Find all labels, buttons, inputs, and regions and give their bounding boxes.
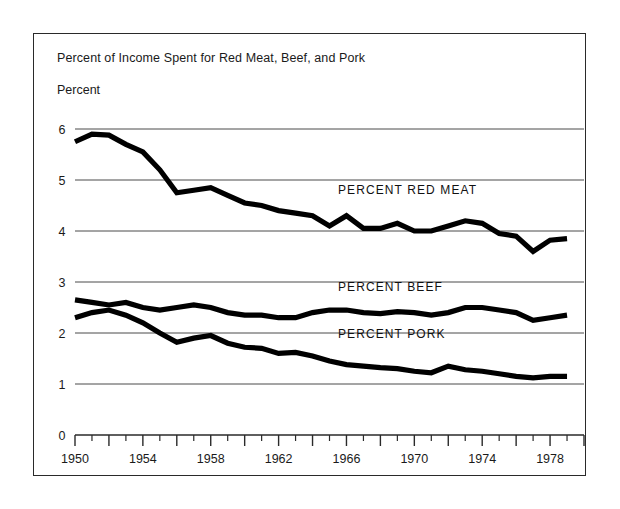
chart-frame: Percent of Income Spent for Red Meat, Be… [33,33,586,476]
y-tick-label-6: 6 [59,123,66,137]
series-annotation-0: PERCENT RED MEAT [338,183,477,197]
x-tick-label-1978: 1978 [536,452,564,466]
x-tick-label-1954: 1954 [129,452,157,466]
series-line-1 [75,300,567,320]
chart-plot: 0123456 19501954195819621966197019741978… [34,34,587,477]
y-tick-label-0: 0 [59,429,66,443]
series-line-2 [75,310,567,378]
x-tick-label-1966: 1966 [333,452,361,466]
x-tick-label-1958: 1958 [197,452,225,466]
chart-page: { "chart_data": { "type": "line", "title… [0,0,620,509]
x-tick-label-1970: 1970 [400,452,428,466]
y-tick-label-3: 3 [59,276,66,290]
series-annotation-1: PERCENT BEEF [338,280,443,294]
y-tick-label-2: 2 [59,327,66,341]
x-axis: 19501954195819621966197019741978 [61,435,584,466]
gridlines [75,129,584,435]
y-tick-label-1: 1 [59,378,66,392]
y-tick-label-5: 5 [59,174,66,188]
data-series [75,134,567,378]
series-line-0 [75,134,567,251]
series-annotations: PERCENT RED MEATPERCENT BEEFPERCENT PORK [338,183,477,341]
x-tick-label-1950: 1950 [61,452,89,466]
y-tick-label-4: 4 [59,225,66,239]
x-tick-label-1962: 1962 [265,452,293,466]
y-axis-ticks: 0123456 [59,123,66,443]
x-tick-label-1974: 1974 [468,452,496,466]
series-annotation-2: PERCENT PORK [338,327,446,341]
